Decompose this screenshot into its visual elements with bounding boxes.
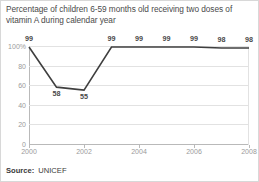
point-label-2006: 99	[190, 34, 198, 43]
point-label-2008: 98	[245, 35, 253, 44]
point-label-2000: 99	[25, 34, 33, 43]
x-tick-mark-2002	[84, 145, 85, 148]
x-tick-mark-2006	[194, 145, 195, 148]
source-value: UNICEF	[38, 166, 66, 175]
data-series-line	[1, 1, 259, 182]
chart-figure: Percentage of children 6-59 months old r…	[0, 0, 259, 182]
point-label-2001: 58	[53, 89, 61, 98]
x-tick-mark-2000	[29, 145, 30, 148]
point-label-2002: 55	[80, 92, 88, 101]
point-label-2004: 99	[135, 34, 143, 43]
source-note: Source:UNICEF	[6, 166, 67, 175]
point-label-2005: 99	[163, 34, 171, 43]
x-tick-mark-2004	[139, 145, 140, 148]
source-label: Source:	[6, 166, 34, 175]
point-label-2003: 99	[108, 34, 116, 43]
point-label-2007: 98	[218, 35, 226, 44]
x-tick-mark-2008	[249, 145, 250, 148]
